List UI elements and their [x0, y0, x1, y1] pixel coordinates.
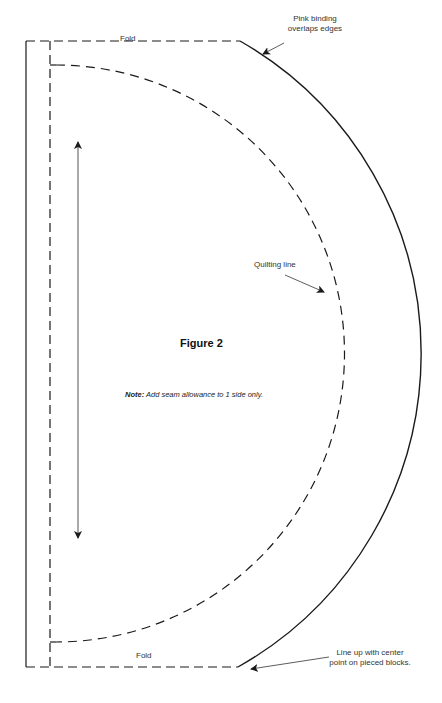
figure-title: Figure 2 [180, 337, 223, 349]
fold-label-bottom: Fold [136, 651, 152, 661]
pink-binding-leader [263, 43, 284, 54]
outer-binding-arc [238, 41, 421, 667]
note-text: Add seam allowance to 1 side only. [144, 390, 263, 399]
note-label: Note: [125, 390, 144, 399]
pink-binding-line2: overlaps edges [285, 24, 345, 34]
pink-binding-label: Pink binding overlaps edges [285, 14, 345, 34]
quilting-arc [56, 65, 345, 642]
line-up-line2: point on pieced blocks. [322, 658, 418, 668]
line-up-leader [251, 657, 329, 669]
pattern-diagram [0, 0, 442, 703]
line-up-line1: Line up with center [322, 648, 418, 658]
pink-binding-line1: Pink binding [285, 14, 345, 24]
quilting-line-leader [285, 275, 324, 292]
figure-note: Note: Add seam allowance to 1 side only. [125, 390, 263, 399]
fold-label-top: Fold [120, 34, 136, 44]
line-up-label: Line up with center point on pieced bloc… [322, 648, 418, 668]
quilting-line-label: Quilting line [254, 260, 296, 270]
